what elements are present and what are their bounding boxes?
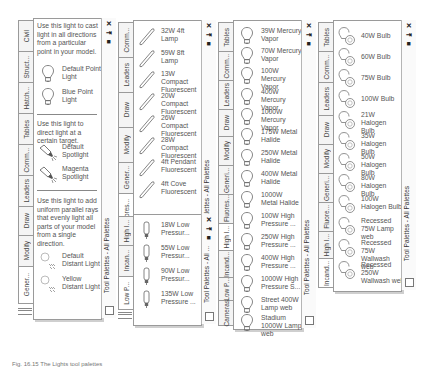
tab-low-pressure[interactable]: Low P...: [218, 277, 233, 301]
close-icon[interactable]: ✕: [104, 20, 113, 27]
palette-properties-icon[interactable]: [205, 312, 214, 321]
palette-title-bar[interactable]: ✕ ⇥ ■ Tool Palettes - All ...: [201, 214, 216, 324]
close-icon[interactable]: ✕: [404, 22, 413, 29]
tab-fluorescent[interactable]: Fluores...: [218, 194, 233, 224]
close-icon[interactable]: ✕: [204, 22, 213, 29]
autohide-icon[interactable]: ⇥: [204, 225, 213, 232]
tab-generic[interactable]: Generi...: [218, 165, 233, 195]
tab-hatches[interactable]: Hatch...: [18, 82, 33, 114]
tab-generic[interactable]: Gener...: [18, 266, 34, 304]
tool-item[interactable]: 175W Metal Halide: [237, 127, 301, 147]
tab-tables[interactable]: Tables: [318, 22, 333, 52]
tab-high-intensity[interactable]: High I...: [218, 223, 234, 251]
tool-item[interactable]: 75W Bulb: [337, 68, 401, 88]
tab-cameras[interactable]: Cameras: [218, 300, 233, 326]
tab-leaders[interactable]: Leaders: [118, 57, 133, 93]
properties-menu-icon[interactable]: ■: [204, 234, 213, 241]
tab-civil[interactable]: Civil: [18, 20, 33, 52]
properties-menu-icon[interactable]: ■: [104, 38, 113, 45]
palette-title-bar[interactable]: ✕ ⇥ ■ Tool Palettes - All Palettes: [301, 20, 316, 328]
tab-draw[interactable]: Draw: [218, 109, 233, 137]
palette-properties-icon[interactable]: [405, 278, 414, 287]
tab-modify[interactable]: Modify: [18, 235, 33, 267]
hid-bulb-icon: [237, 148, 257, 168]
tab-low-pressure[interactable]: Low P...: [118, 276, 134, 310]
autohide-icon[interactable]: ⇥: [304, 31, 313, 38]
tab-modify[interactable]: Modify: [318, 144, 333, 174]
tabs-overflow-grip[interactable]: [118, 312, 132, 319]
tool-item[interactable]: 40W Bulb: [337, 26, 401, 46]
tool-default-distant-light[interactable]: Default Distant Light: [38, 251, 102, 271]
tab-leaders[interactable]: Leaders: [218, 80, 233, 110]
tab-command[interactable]: Comm...: [18, 144, 33, 176]
tool-item[interactable]: 135W Low Pressure ...: [137, 289, 201, 309]
tool-item[interactable]: 250W Metal Halide: [237, 148, 301, 168]
tool-item[interactable]: 18W Low Pressur...: [137, 220, 199, 240]
tool-item[interactable]: Recessed 250W Wallwash web: [337, 260, 405, 285]
tab-command[interactable]: Comm...: [318, 51, 333, 83]
close-icon[interactable]: ✕: [304, 22, 313, 29]
properties-menu-icon[interactable]: ■: [204, 40, 213, 47]
tool-item[interactable]: 39W Mercury Vapor: [237, 26, 303, 46]
section-divider: [37, 190, 97, 191]
tab-command[interactable]: Comm...: [118, 22, 133, 58]
tab-leaders[interactable]: Leaders: [18, 175, 33, 207]
tool-item[interactable]: 60W Bulb: [337, 47, 401, 67]
tab-incandescent[interactable]: Incand...: [218, 250, 233, 278]
tab-draw[interactable]: Draw: [18, 206, 33, 236]
tab-fluorescent[interactable]: Fluore...: [318, 202, 333, 232]
tab-generic[interactable]: Gener...: [118, 162, 133, 194]
tool-item[interactable]: 59W 8ft Lamp: [137, 48, 201, 68]
palette-properties-icon[interactable]: [305, 316, 314, 325]
tab-leaders[interactable]: Leaders: [318, 82, 333, 116]
tab-command[interactable]: Comm...: [218, 51, 233, 81]
tool-item[interactable]: 100W High Pressure ...: [237, 211, 301, 231]
tab-modify[interactable]: Modify: [118, 127, 133, 163]
tabs-overflow-grip[interactable]: [18, 308, 32, 315]
tool-yellow-distant-light[interactable]: Yellow Distant Light: [38, 274, 102, 294]
tab-tables[interactable]: Tables: [218, 22, 233, 52]
tool-item[interactable]: 90W Low Pressur...: [137, 266, 199, 286]
autohide-icon[interactable]: ⇥: [404, 31, 413, 38]
hid-bulb-icon: [237, 66, 257, 86]
fluorescent-tube-icon: [137, 26, 157, 46]
properties-menu-icon[interactable]: ■: [404, 40, 413, 47]
tool-default-point-light[interactable]: Default Point Light: [38, 64, 102, 84]
tab-tables[interactable]: Tables: [18, 113, 33, 145]
close-icon[interactable]: ✕: [204, 216, 213, 223]
tab-high-intensity[interactable]: High I...: [118, 216, 133, 246]
tool-item[interactable]: 400W High Pressure ...: [237, 253, 301, 273]
tool-item[interactable]: 1000W Metal Halide: [237, 190, 301, 210]
tool-item[interactable]: Street 400W Lamp web: [237, 295, 301, 315]
tool-item[interactable]: 32W 4ft Lamp: [137, 26, 201, 46]
tab-structural[interactable]: Struct...: [18, 51, 33, 83]
tool-item[interactable]: 4ft Cove Fluorescent: [137, 179, 201, 199]
tab-draw[interactable]: Draw: [118, 92, 133, 128]
palette-title-bar[interactable]: ✕ ⇥ ■ Tool Palettes - All Palettes: [101, 18, 116, 318]
tool-item[interactable]: 1000W High Pressure S...: [237, 274, 303, 294]
tool-item[interactable]: 70W Mercury Vapor: [237, 46, 303, 66]
fluorescent-tube-icon: [137, 113, 157, 133]
tool-item[interactable]: 100W Bulb: [337, 89, 401, 109]
tab-high-intensity[interactable]: High I...: [318, 231, 333, 259]
autohide-icon[interactable]: ⇥: [204, 31, 213, 38]
tool-item[interactable]: 100W Halogen Bulb: [337, 194, 403, 214]
tool-item[interactable]: 250W High Pressure ...: [237, 232, 301, 252]
tool-item[interactable]: 4ft Pendant Fluorescent: [137, 157, 201, 177]
tool-magenta-spotlight[interactable]: Magenta Spotlight: [38, 164, 100, 184]
tool-blue-point-light[interactable]: Blue Point Light: [38, 87, 102, 107]
properties-menu-icon[interactable]: ■: [304, 40, 313, 47]
tool-item[interactable]: 55W Low Pressur...: [137, 243, 199, 263]
tab-modify[interactable]: Modify: [218, 136, 233, 166]
tool-item[interactable]: Stadium 1000W Lamp web: [237, 313, 307, 338]
tab-draw[interactable]: Draw: [318, 115, 333, 145]
tool-default-spotlight[interactable]: Default Spotlight: [38, 142, 100, 162]
tab-generic[interactable]: Generi...: [318, 173, 333, 203]
incandescent-bulb-icon: [337, 131, 357, 151]
autohide-icon[interactable]: ⇥: [104, 29, 113, 36]
tool-item[interactable]: 400W Metal Halide: [237, 169, 301, 189]
palette-properties-icon[interactable]: [105, 306, 114, 315]
tab-incandescent[interactable]: Incan...: [118, 245, 133, 277]
palette-title-bar[interactable]: ✕ ⇥ ■ Tool Palettes - All Palettes: [401, 20, 416, 290]
tab-incandescent[interactable]: Incand...: [318, 258, 334, 288]
